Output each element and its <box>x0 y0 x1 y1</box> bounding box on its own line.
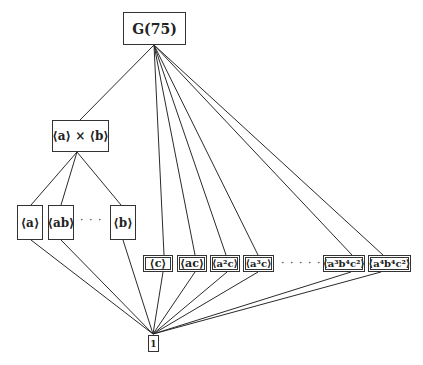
node-a4b4c2: ⟨a⁴b⁴c²⟩ <box>368 255 411 272</box>
edge-top-axb <box>80 45 154 120</box>
edge-axb-b <box>77 152 121 205</box>
node-label: G(75) <box>132 21 177 37</box>
node-label: ⟨a⁴b⁴c²⟩ <box>369 258 411 269</box>
edge-ab-one <box>61 240 153 334</box>
edge-axb-ab <box>61 152 77 205</box>
node-ac: ⟨ac⟩ <box>177 255 207 272</box>
edge-layer <box>0 0 423 365</box>
subgroup-lattice-diagram: G(75)⟨a⟩ × ⟨b⟩⟨a⟩⟨ab⟩⟨b⟩⟨c⟩⟨ac⟩⟨a²c⟩⟨a³c… <box>0 0 423 365</box>
node-label: ⟨ab⟩ <box>47 216 74 230</box>
node-label: ⟨b⟩ <box>113 216 132 230</box>
node-label: ⟨ac⟩ <box>180 257 204 270</box>
node-label: ⟨a⟩ <box>21 216 40 230</box>
node-one: 1 <box>148 335 159 352</box>
edge-top-a2c <box>154 45 226 255</box>
node-label: ⟨a³c⟩ <box>245 258 271 269</box>
node-top: G(75) <box>123 12 186 45</box>
node-a3c: ⟨a³c⟩ <box>243 255 274 272</box>
ellipsis-dots-bottom: · · · · · · <box>281 257 330 270</box>
edge-a3c-one <box>153 272 258 334</box>
node-label: ⟨c⟩ <box>150 257 167 270</box>
ellipsis-dots-mid: · · · <box>80 214 102 227</box>
node-label: ⟨a²c⟩ <box>212 258 238 269</box>
node-a: ⟨a⟩ <box>17 205 43 240</box>
edge-c-one <box>153 272 163 334</box>
edge-top-c <box>154 45 164 255</box>
node-c: ⟨c⟩ <box>143 255 173 272</box>
edge-a-one <box>31 240 153 334</box>
node-b: ⟨b⟩ <box>110 205 136 240</box>
node-label: 1 <box>150 339 156 349</box>
edge-top-a3c <box>154 45 258 255</box>
node-axb: ⟨a⟩ × ⟨b⟩ <box>52 120 109 152</box>
node-a2c: ⟨a²c⟩ <box>210 255 240 272</box>
edge-axb-a <box>31 152 77 205</box>
node-ab: ⟨ab⟩ <box>48 205 74 240</box>
node-label: ⟨a⟩ × ⟨b⟩ <box>52 129 109 143</box>
edge-a3b4c2-one <box>153 272 351 334</box>
edge-a2c-one <box>153 272 227 334</box>
edge-top-a3b4c2 <box>154 45 352 255</box>
edge-a4b4c2-one <box>153 272 381 334</box>
